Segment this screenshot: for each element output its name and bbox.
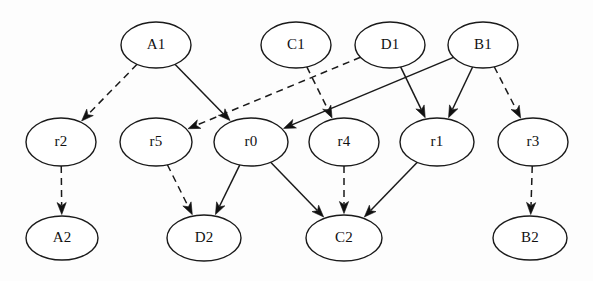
node-label-r4: r4 [338, 133, 351, 149]
edge-b1-to-r3 [494, 67, 520, 118]
node-label-d1: D1 [381, 36, 400, 52]
node-label-r5: r5 [150, 133, 163, 149]
edge-d1-to-r5 [188, 57, 360, 128]
node-label-a2: A2 [53, 229, 72, 245]
node-label-r0: r0 [245, 133, 258, 149]
graph-svg: A1C1D1B1r2r5r0r4r1r3A2D2C2B2 [0, 0, 593, 281]
node-d1[interactable]: D1 [355, 22, 425, 68]
edge-r5-to-d2 [167, 165, 192, 215]
edge-line-solid [452, 67, 472, 110]
graph-diagram-canvas: A1C1D1B1r2r5r0r4r1r3A2D2C2B2 [0, 0, 593, 281]
edge-line-solid [292, 57, 454, 125]
edge-line-solid [175, 64, 224, 114]
edge-line-solid [401, 67, 422, 110]
edge-line-dashed [307, 67, 328, 110]
node-r3[interactable]: r3 [498, 118, 568, 166]
edge-line-solid [371, 162, 418, 210]
node-c2[interactable]: C2 [306, 215, 382, 261]
node-label-c1: C1 [287, 36, 305, 52]
node-r5[interactable]: r5 [120, 118, 192, 166]
edge-r0-to-d2 [215, 165, 239, 215]
nodes-layer: A1C1D1B1r2r5r0r4r1r3A2D2C2B2 [26, 22, 568, 261]
node-label-b2: B2 [521, 229, 539, 245]
node-a1[interactable]: A1 [121, 22, 191, 68]
node-r2[interactable]: r2 [26, 118, 96, 166]
edge-line-solid [271, 162, 318, 210]
node-r4[interactable]: r4 [309, 118, 379, 166]
edge-line-dashed [167, 165, 188, 207]
node-a2[interactable]: A2 [26, 216, 98, 260]
arrowhead-icon [183, 202, 192, 215]
edge-line-dashed [494, 67, 516, 110]
edge-line-dashed [196, 57, 360, 125]
node-r1[interactable]: r1 [400, 118, 474, 166]
node-label-a1: A1 [147, 36, 166, 52]
edge-r2-to-a2 [57, 166, 66, 215]
node-d2[interactable]: D2 [167, 215, 241, 261]
node-label-r3: r3 [527, 133, 540, 149]
node-label-d2: D2 [195, 229, 214, 245]
edge-r0-to-c2 [271, 162, 324, 217]
edge-line-dashed [88, 64, 137, 114]
edge-line-solid [219, 165, 239, 207]
edge-a1-to-r0 [175, 64, 230, 120]
node-label-b1: B1 [474, 36, 492, 52]
node-label-r2: r2 [55, 133, 68, 149]
node-b1[interactable]: B1 [448, 22, 518, 68]
arrowhead-icon [511, 105, 521, 118]
edge-r3-to-b2 [527, 166, 536, 215]
node-label-r1: r1 [431, 133, 444, 149]
edge-r4-to-c2 [339, 166, 348, 214]
edge-b1-to-r0 [284, 57, 454, 128]
node-c1[interactable]: C1 [261, 22, 331, 68]
node-r0[interactable]: r0 [214, 118, 288, 166]
node-b2[interactable]: B2 [493, 216, 567, 260]
node-label-c2: C2 [335, 229, 353, 245]
edge-r1-to-c2 [364, 162, 417, 217]
edge-b1-to-r1 [449, 67, 473, 118]
edge-a1-to-r2 [82, 64, 137, 121]
edge-line-dashed [531, 166, 532, 206]
